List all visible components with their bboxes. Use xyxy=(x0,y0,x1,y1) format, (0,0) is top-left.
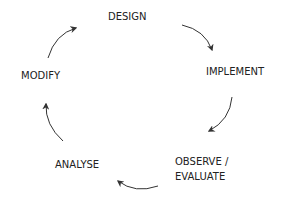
arrow-implement-to-observe xyxy=(209,97,232,131)
arrow-analyse-to-modify xyxy=(46,104,63,141)
stage-design-label: DESIGN xyxy=(108,9,147,24)
arrow-observe-to-analyse xyxy=(118,181,158,189)
arrows-layer xyxy=(0,0,282,203)
stage-observe-line2: EVALUATE xyxy=(175,169,228,184)
stage-observe-line1: OBSERVE / xyxy=(175,154,228,169)
arrow-modify-to-design xyxy=(48,28,76,58)
stage-observe-label: OBSERVE / EVALUATE xyxy=(175,154,228,184)
stage-implement-label: IMPLEMENT xyxy=(206,64,264,79)
stage-analyse-label: ANALYSE xyxy=(55,157,99,172)
cycle-diagram: DESIGN IMPLEMENT OBSERVE / EVALUATE ANAL… xyxy=(0,0,282,203)
arrow-design-to-implement xyxy=(182,25,212,50)
stage-modify-label: MODIFY xyxy=(21,68,60,83)
